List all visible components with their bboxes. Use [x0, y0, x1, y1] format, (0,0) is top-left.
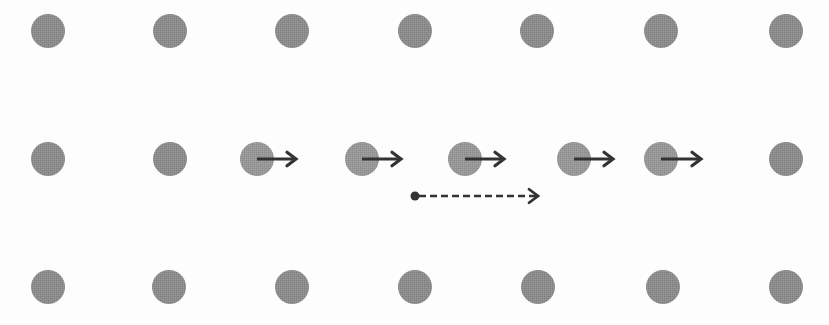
particle: [520, 14, 554, 48]
particle: [275, 14, 309, 48]
particle: [153, 142, 187, 176]
particle-wave-diagram: [0, 0, 829, 325]
wave-propagation-arrow-icon: [411, 189, 539, 203]
particle: [398, 270, 432, 304]
propagation-arrow-layer: [411, 189, 539, 203]
bottom-row: [31, 270, 803, 304]
particle: [644, 14, 678, 48]
particle: [31, 14, 65, 48]
top-row: [31, 14, 803, 48]
particle: [152, 270, 186, 304]
particle: [521, 270, 555, 304]
particle: [769, 142, 803, 176]
particle: [31, 142, 65, 176]
particle: [31, 270, 65, 304]
particle: [769, 14, 803, 48]
particle: [275, 270, 309, 304]
particle: [646, 270, 680, 304]
start-dot-icon: [411, 192, 420, 201]
particle: [153, 14, 187, 48]
particle: [769, 270, 803, 304]
particle: [398, 14, 432, 48]
